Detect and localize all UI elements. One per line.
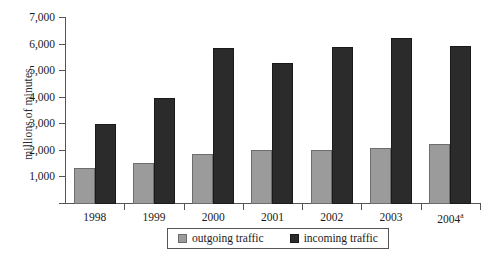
legend-item: incoming traffic <box>290 232 378 244</box>
x-axis-tick-label: 1999 <box>142 211 165 223</box>
y-axis-tick: 7,000 <box>59 17 66 18</box>
x-axis-tick <box>480 203 481 210</box>
y-axis-tick-label: 7,000 <box>29 11 55 23</box>
bar-incoming-traffic <box>95 124 116 204</box>
plot-area: 1,0002,0003,0004,0005,0006,0007,000 1998… <box>65 18 480 204</box>
legend-item: outgoing traffic <box>178 232 264 244</box>
y-axis-tick-label: 5,000 <box>29 64 55 76</box>
bar-chart-figure: millions of minutes 1,0002,0003,0004,000… <box>0 0 501 266</box>
bar-group: 1998 <box>65 124 124 204</box>
bar-group: 2001 <box>243 63 302 204</box>
bar-outgoing-traffic <box>429 144 450 204</box>
bar-outgoing-traffic <box>192 154 213 204</box>
bar-group: 2002 <box>302 47 361 204</box>
bar-incoming-traffic <box>391 38 412 204</box>
legend-label: outgoing traffic <box>192 232 264 244</box>
bar-outgoing-traffic <box>311 150 332 204</box>
y-axis-tick-label: 4,000 <box>29 91 55 103</box>
x-axis-tick <box>124 203 125 210</box>
cropped-title-artifact <box>150 0 380 8</box>
footnote-marker: a <box>460 211 463 220</box>
x-axis-tick <box>184 203 185 210</box>
bar-incoming-traffic <box>450 46 471 204</box>
x-axis-tick-label: 1998 <box>83 211 106 223</box>
bar-incoming-traffic <box>332 47 353 204</box>
x-axis-tick <box>302 203 303 210</box>
black-swatch <box>290 234 299 243</box>
bar-outgoing-traffic <box>133 163 154 204</box>
y-axis-tick: 4,000 <box>59 97 66 98</box>
x-axis-tick <box>421 203 422 210</box>
bar-group: 2003 <box>361 38 420 204</box>
x-axis-tick-label: 2000 <box>202 211 225 223</box>
bar-outgoing-traffic <box>370 148 391 204</box>
bar-group: 1999 <box>124 98 183 204</box>
bar-group: 2000 <box>184 48 243 204</box>
x-axis-tick-label: 2003 <box>380 211 403 223</box>
y-axis-tick: 5,000 <box>59 70 66 71</box>
x-axis-tick-label: 2001 <box>261 211 284 223</box>
bar-incoming-traffic <box>154 98 175 204</box>
gray-swatch <box>178 234 187 243</box>
x-axis-tick <box>361 203 362 210</box>
chart-legend: outgoing trafficincoming traffic <box>167 228 389 249</box>
y-axis-tick-label: 1,000 <box>29 170 55 182</box>
bar-outgoing-traffic <box>251 150 272 204</box>
x-axis-tick <box>243 203 244 210</box>
y-axis-tick-label: 6,000 <box>29 38 55 50</box>
x-axis-tick-label: 2004a <box>437 211 463 225</box>
bar-group: 2004a <box>421 46 480 204</box>
legend-label: incoming traffic <box>304 232 378 244</box>
y-axis-tick-label: 3,000 <box>29 117 55 129</box>
bar-incoming-traffic <box>213 48 234 204</box>
x-axis-tick-label: 2002 <box>320 211 343 223</box>
y-axis-tick: 6,000 <box>59 44 66 45</box>
bar-outgoing-traffic <box>74 168 95 204</box>
y-axis-tick-label: 2,000 <box>29 144 55 156</box>
bar-incoming-traffic <box>272 63 293 204</box>
